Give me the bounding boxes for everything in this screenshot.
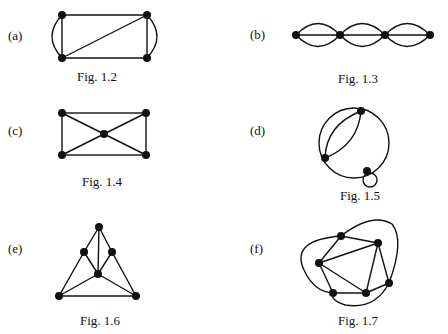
figure-b-graph	[296, 24, 430, 47]
graph-figures-canvas	[0, 0, 448, 334]
figure-c-caption: Fig. 1.4	[82, 175, 122, 188]
figure-c-label: (c)	[8, 124, 22, 137]
figure-e-label: (e)	[8, 242, 22, 255]
figure-f-caption: Fig. 1.7	[338, 314, 378, 327]
figure-b-label: (b)	[250, 28, 265, 41]
figure-d-label: (d)	[250, 124, 265, 137]
figure-d-caption: Fig. 1.5	[340, 189, 380, 202]
figure-a-caption: Fig. 1.2	[77, 70, 117, 83]
figure-a-label: (a)	[8, 29, 22, 42]
figure-e-graph	[59, 227, 136, 296]
figure-a-graph	[52, 15, 157, 58]
figure-e-caption: Fig. 1.6	[80, 314, 120, 327]
figure-d-graph	[319, 108, 389, 187]
figure-b-caption: Fig. 1.3	[338, 72, 378, 85]
figure-f-label: (f)	[250, 242, 263, 255]
